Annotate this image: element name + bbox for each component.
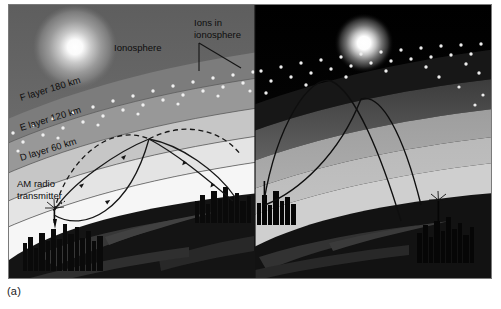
figure-caption: (a) xyxy=(7,285,21,297)
ionosphere-diagram: Ionosphere Ions in ionosphere F layer 18… xyxy=(9,5,492,279)
diagram-stage: Ionosphere Ions in ionosphere F layer 18… xyxy=(9,5,491,278)
label-ions-line2: ionosphere xyxy=(194,29,241,40)
label-transmitter-line2: transmitter xyxy=(17,190,62,201)
label-ionosphere: Ionosphere xyxy=(114,42,162,53)
label-transmitter-line1: AM radio xyxy=(17,178,55,189)
diagram-frame: Ionosphere Ions in ionosphere F layer 18… xyxy=(8,4,492,279)
label-ions-line1: Ions in xyxy=(194,17,222,28)
figure-root: Ionosphere Ions in ionosphere F layer 18… xyxy=(0,0,501,309)
moon-icon xyxy=(334,13,394,73)
